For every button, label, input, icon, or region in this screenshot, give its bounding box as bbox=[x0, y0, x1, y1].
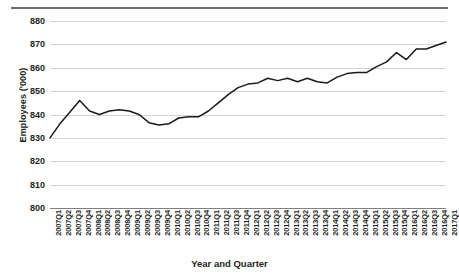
x-axis-tick-label: 2012Q1 bbox=[252, 210, 261, 236]
x-axis-tick-label: 2016Q2 bbox=[420, 210, 429, 236]
x-axis-tick-label: 2013Q4 bbox=[321, 210, 330, 236]
x-axis-tick-label: 2009Q3 bbox=[153, 210, 162, 236]
x-axis-title: Year and Quarter bbox=[0, 258, 459, 269]
x-axis-tick-label: 2012Q4 bbox=[282, 210, 291, 236]
x-axis-tick-label: 2009Q4 bbox=[163, 210, 172, 236]
x-axis-tick-label: 2013Q3 bbox=[311, 210, 320, 236]
x-axis-tick-label: 2010Q2 bbox=[183, 210, 192, 236]
y-axis-tick-label: 870 bbox=[30, 39, 45, 49]
x-axis-tick-label: 2014Q2 bbox=[341, 210, 350, 236]
series-line bbox=[50, 21, 446, 208]
x-axis-tick-label: 2008Q1 bbox=[94, 210, 103, 236]
x-axis-tick-label: 2010Q3 bbox=[193, 210, 202, 236]
x-axis-tick-label: 2008Q3 bbox=[113, 210, 122, 236]
x-axis-tick-label: 2012Q2 bbox=[262, 210, 271, 236]
x-axis-tick-label: 2016Q1 bbox=[410, 210, 419, 236]
x-axis-tick-label: 2016Q3 bbox=[430, 210, 439, 236]
x-axis-tick-label: 2009Q1 bbox=[133, 210, 142, 236]
x-axis-tick-label: 2016Q4 bbox=[440, 210, 449, 236]
x-axis-tick-label: 2014Q4 bbox=[361, 210, 370, 236]
x-axis-tick-label: 2012Q3 bbox=[272, 210, 281, 236]
x-axis-tick-label: 2010Q4 bbox=[202, 210, 211, 236]
y-axis-tick-label: 880 bbox=[30, 16, 45, 26]
x-axis-tick-label: 2013Q1 bbox=[292, 210, 301, 236]
x-axis-tick-label: 2014Q3 bbox=[351, 210, 360, 236]
x-axis-tick-label: 2015Q1 bbox=[371, 210, 380, 236]
top-divider-rule bbox=[11, 7, 448, 9]
x-axis-tick-label: 2008Q2 bbox=[103, 210, 112, 236]
x-axis-tick-label: 2007Q1 bbox=[54, 210, 63, 236]
y-axis-tick-label: 840 bbox=[30, 110, 45, 120]
y-axis-tick-label: 810 bbox=[30, 180, 45, 190]
y-axis-tick-label: 860 bbox=[30, 63, 45, 73]
x-axis-tick-label: 2007Q3 bbox=[74, 210, 83, 236]
x-axis-tick-label: 2011Q1 bbox=[212, 210, 221, 235]
gridline: 800 bbox=[50, 208, 446, 209]
y-axis-tick-label: 820 bbox=[30, 156, 45, 166]
employment-line-chart: Employees ('000) 88087086085084083082081… bbox=[0, 0, 459, 279]
y-axis-title: Employees ('000) bbox=[18, 35, 28, 175]
y-axis-tick-label: 850 bbox=[30, 86, 45, 96]
plot-area: 880870860850840830820810800 bbox=[50, 21, 446, 208]
x-axis-tick-label: 2007Q2 bbox=[64, 210, 73, 236]
x-axis-tick-label: 2011Q2 bbox=[222, 210, 231, 235]
x-axis-tick-label: 2011Q3 bbox=[232, 210, 241, 235]
x-axis-tick-label: 2015Q4 bbox=[400, 210, 409, 236]
x-axis-tick-labels: 2007Q12007Q22007Q32007Q42008Q12008Q22008… bbox=[50, 210, 446, 254]
x-axis-tick-label: 2015Q2 bbox=[381, 210, 390, 236]
x-axis-tick-label: 2009Q2 bbox=[143, 210, 152, 236]
x-axis-tick-label: 2010Q1 bbox=[173, 210, 182, 236]
x-axis-tick-label: 2011Q4 bbox=[242, 210, 251, 235]
x-axis-tick-label: 2017Q1 bbox=[450, 210, 459, 236]
x-axis-tick-label: 2015Q3 bbox=[391, 210, 400, 236]
y-axis-tick-label: 800 bbox=[30, 203, 45, 213]
x-axis-tick-label: 2007Q4 bbox=[84, 210, 93, 236]
x-axis-tick-label: 2008Q4 bbox=[123, 210, 132, 236]
y-axis-tick-label: 830 bbox=[30, 133, 45, 143]
x-axis-tick-label: 2014Q1 bbox=[331, 210, 340, 236]
x-axis-tick-label: 2013Q2 bbox=[301, 210, 310, 236]
